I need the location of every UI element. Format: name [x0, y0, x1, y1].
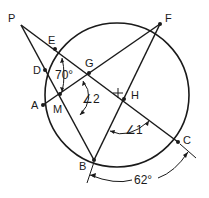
label-F: F	[165, 12, 172, 24]
secant-PC	[21, 25, 178, 142]
label-G: G	[85, 57, 94, 69]
angle-label-2: ∠2	[82, 92, 100, 106]
label-P: P	[8, 12, 15, 24]
label-E: E	[48, 34, 55, 46]
circle	[45, 23, 189, 167]
geometry-diagram: P E D G A M H F B C 70° ∠2 ∠1 62°	[0, 0, 209, 198]
label-D: D	[33, 64, 41, 76]
label-C: C	[183, 134, 191, 146]
angle-label-70: 70°	[55, 68, 73, 82]
arc-label-62: 62°	[134, 173, 152, 187]
angle-label-1: ∠1	[125, 123, 143, 137]
label-H: H	[131, 89, 139, 101]
label-A: A	[31, 99, 39, 111]
chord-BF	[94, 24, 160, 160]
label-B: B	[79, 160, 86, 172]
label-M: M	[53, 103, 62, 115]
